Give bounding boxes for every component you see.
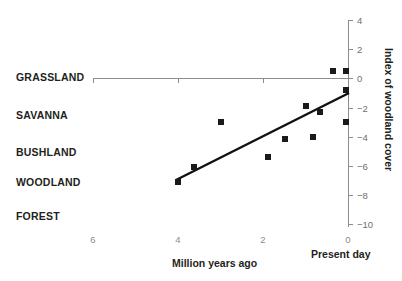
data-point [310, 134, 316, 140]
y-axis-title: Index of woodland cover [384, 48, 395, 171]
data-point [317, 109, 323, 115]
data-point [343, 68, 349, 74]
data-point [191, 164, 197, 170]
data-point [282, 136, 288, 142]
trend-line-layer [0, 0, 402, 281]
present-day-label: Present day [311, 249, 371, 260]
data-point [343, 119, 349, 125]
data-point [175, 179, 181, 185]
x-axis-title: Million years ago [172, 258, 257, 269]
data-point [265, 154, 271, 160]
woodland-cover-chart: GRASSLAND SAVANNA BUSHLAND WOODLAND FORE… [0, 0, 402, 281]
regression-trend-line [176, 93, 349, 180]
data-point [330, 68, 336, 74]
plot-area: 4 2 0 −2 −4 −6 −8 −10 6 4 2 0 [0, 0, 402, 281]
data-point [218, 119, 224, 125]
data-point [343, 87, 349, 93]
data-point [303, 103, 309, 109]
